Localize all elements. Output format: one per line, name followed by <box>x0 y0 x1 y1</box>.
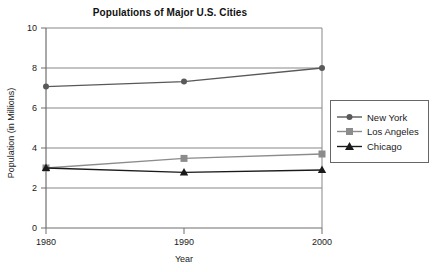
legend-label-new-york: New York <box>367 112 407 123</box>
y-axis-title: Population (in Millions) <box>6 88 16 179</box>
x-tick-label-1980: 1980 <box>36 237 56 247</box>
y-tick-label-8: 8 <box>32 63 37 73</box>
data-point-los-angeles-1990 <box>181 155 188 162</box>
y-tick-label-6: 6 <box>32 103 37 113</box>
data-point-new-york-1990 <box>181 79 187 85</box>
chart-legend[interactable]: New York Los Angeles Chicago <box>331 101 429 163</box>
y-tick-labels: 10 8 6 4 2 0 <box>27 23 37 233</box>
y-tick-label-0: 0 <box>32 223 37 233</box>
x-tick-marks <box>46 228 322 234</box>
data-point-new-york-1980 <box>43 84 49 90</box>
x-tick-label-2000: 2000 <box>312 237 332 247</box>
y-tick-label-2: 2 <box>32 183 37 193</box>
y-tick-marks <box>41 28 46 228</box>
data-point-new-york-2000 <box>319 65 325 71</box>
square-marker-icon <box>346 128 353 135</box>
circle-marker-icon <box>347 114 353 120</box>
chart-plot-svg: 10 8 6 4 2 0 1980 1990 2000 Year Populat… <box>0 0 435 272</box>
data-point-los-angeles-2000 <box>319 151 326 158</box>
x-tick-labels: 1980 1990 2000 <box>36 237 332 247</box>
y-tick-label-4: 4 <box>32 143 37 153</box>
x-tick-label-1990: 1990 <box>174 237 194 247</box>
chart-container: Populations of Major U.S. Cities <box>0 0 435 272</box>
gridlines <box>46 28 322 188</box>
data-point-chicago-2000 <box>318 166 326 174</box>
series-new-york <box>43 65 325 90</box>
axes <box>46 28 322 228</box>
y-tick-label-10: 10 <box>27 23 37 33</box>
x-axis-title: Year <box>175 254 193 264</box>
legend-label-chicago: Chicago <box>367 141 402 152</box>
legend-label-los-angeles: Los Angeles <box>367 126 419 137</box>
